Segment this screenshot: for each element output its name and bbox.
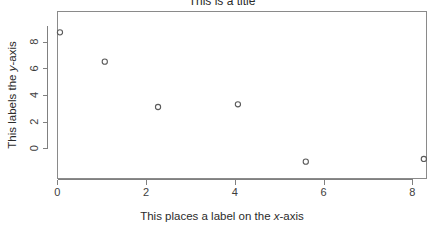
- x-tick-label: 4: [232, 186, 238, 198]
- x-tick-label: 0: [54, 186, 60, 198]
- data-point-series: [57, 30, 426, 165]
- y-tick-label: 0: [28, 145, 40, 151]
- y-tick-label: 6: [28, 65, 40, 71]
- data-point: [102, 59, 107, 64]
- plot-title: This is a title: [189, 0, 256, 8]
- data-point: [421, 156, 426, 161]
- x-axis-ticks: 02468: [54, 180, 415, 199]
- plot-panel: [58, 12, 427, 179]
- data-point: [155, 104, 160, 109]
- data-point: [235, 102, 240, 107]
- x-tick-label: 8: [409, 186, 415, 198]
- x-tick-label: 6: [320, 186, 326, 198]
- x-tick-label: 2: [143, 186, 149, 198]
- data-point: [303, 159, 308, 164]
- data-point: [57, 30, 62, 35]
- y-axis-title-group: This labels the y-axis: [6, 41, 18, 149]
- y-axis-title: This labels the y-axis: [6, 41, 18, 149]
- scatter-plot-figure: This is a title 02468 02468 This places …: [0, 0, 445, 232]
- y-tick-label: 4: [28, 92, 40, 98]
- plot-title-group: This is a title: [189, 0, 256, 8]
- y-tick-label: 8: [28, 39, 40, 45]
- x-axis-title-group: This places a label on the x-axis: [140, 210, 304, 222]
- x-axis-title: This places a label on the x-axis: [140, 210, 304, 222]
- plot-canvas: This is a title 02468 02468 This places …: [0, 0, 445, 232]
- y-tick-label: 2: [28, 119, 40, 125]
- y-axis-ticks: 02468: [28, 39, 48, 152]
